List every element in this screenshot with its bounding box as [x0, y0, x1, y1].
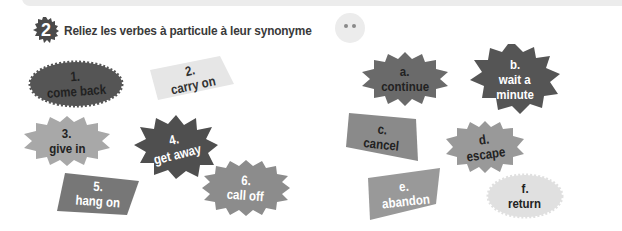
verb-text: give in [49, 141, 85, 156]
verb-card-6[interactable]: 6. call off [202, 160, 290, 216]
verb-number: 6. [241, 173, 252, 189]
synonym-text: return [508, 196, 541, 211]
synonym-letter: e. [399, 179, 410, 195]
synonym-card-e[interactable]: e. abandon [368, 168, 442, 220]
synonym-letter: d. [478, 131, 490, 147]
synonym-letter: f. [521, 181, 528, 196]
synonym-text: continue [381, 79, 429, 94]
verb-text: come back [46, 82, 106, 101]
synonym-letter: a. [400, 64, 410, 79]
exercise-title: Reliez les verbes à particule à leur syn… [64, 23, 312, 38]
verb-text: carry on [170, 73, 217, 97]
synonym-text: cancel [363, 135, 400, 154]
exercise-number-badge: 2 [33, 17, 59, 43]
synonym-letter: c. [377, 122, 388, 138]
synonym-card-c[interactable]: c. cancel [346, 113, 418, 161]
verb-number: 1. [70, 69, 81, 85]
synonym-card-f[interactable]: f. return [487, 174, 563, 218]
verb-card-2[interactable]: 2. carry on [150, 56, 234, 100]
synonym-card-a[interactable]: a. continue [362, 52, 448, 106]
verb-card-5[interactable]: 5. hang on [57, 173, 139, 215]
verb-number: 5. [93, 179, 104, 195]
verb-card-1[interactable]: 1. come back [30, 62, 122, 106]
synonym-text: escape [466, 144, 507, 164]
synonym-text-line2: minute [496, 87, 534, 102]
exercise-number: 2 [33, 17, 59, 43]
smiley-icon [335, 13, 365, 43]
synonym-text: abandon [381, 192, 430, 212]
exercise-header: 2 Reliez les verbes à particule à leur s… [33, 17, 345, 43]
verb-number: 3. [62, 126, 72, 141]
synonym-card-b[interactable]: b. wait a minute [470, 44, 560, 114]
verb-card-3[interactable]: 3. give in [24, 116, 110, 166]
top-bar [22, 0, 622, 6]
verb-text: hang on [75, 192, 121, 210]
synonym-text: wait a [499, 72, 531, 87]
synonym-card-d[interactable]: d. escape [446, 121, 524, 173]
verb-text: call off [226, 187, 264, 205]
synonym-letter: b. [510, 57, 520, 72]
